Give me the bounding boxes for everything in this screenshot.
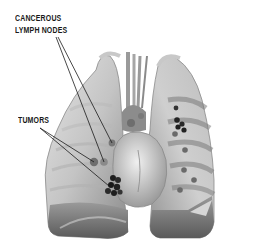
heart	[113, 132, 167, 207]
cancerous-label-line2: LYMPH NODES	[15, 25, 67, 36]
lung-illustration: CANCEROUS LYMPH NODES TUMORS	[0, 0, 257, 250]
cancerous-label-line1: CANCEROUS	[15, 13, 61, 24]
tumors-label: TUMORS	[18, 115, 49, 126]
trachea	[122, 52, 147, 132]
